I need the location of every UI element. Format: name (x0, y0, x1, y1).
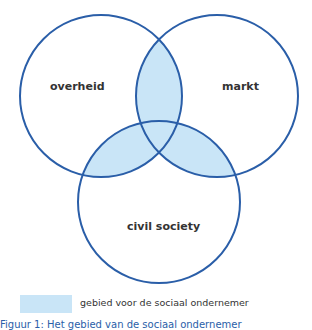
label-overheid: overheid (50, 80, 105, 93)
label-markt: markt (222, 80, 259, 93)
legend-text: gebied voor de sociaal ondernemer (80, 297, 249, 308)
label-civil-society: civil society (127, 220, 200, 233)
venn-diagram (0, 0, 312, 290)
figure-caption: Figuur 1: Het gebied van de sociaal onde… (0, 319, 242, 330)
legend-swatch (20, 295, 72, 313)
